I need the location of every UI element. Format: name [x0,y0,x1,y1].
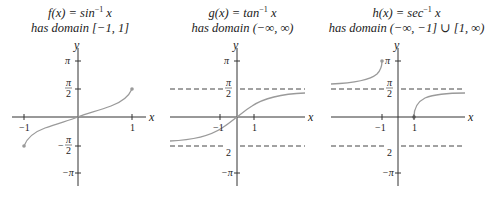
y-tick-neg-pi: −π [221,167,234,178]
svg-text:2: 2 [226,88,231,99]
x-axis-label: x [467,110,474,124]
x-tick-neg1: −1 [375,122,386,133]
y-tick-pi: π [224,55,230,66]
svg-text:2: 2 [66,145,71,156]
panel-arcsin: f(x) = sin−1 x has domain [−1, 1] x y −1… [0,0,160,201]
svg-text:−: − [58,140,64,151]
y-tick-neg-half-pi: 2 [387,147,392,158]
y-tick-pi: π [65,55,71,66]
svg-text:2: 2 [387,88,392,99]
arctan-graph: x y −1 1 π π 2 2 −π [160,0,325,201]
panel-arcsec: h(x) = sec−1 x has domain (−∞, −1] ∪ [1,… [325,0,488,201]
svg-text:π: π [66,77,72,88]
y-axis-label: y [393,38,400,52]
svg-text:π: π [226,77,232,88]
y-tick-neg-pi: −π [382,167,395,178]
svg-text:2: 2 [66,88,71,99]
x-tick-1: 1 [130,122,135,133]
y-tick-neg-pi: −π [62,167,75,178]
x-tick-neg1: −1 [213,122,224,133]
x-tick-1: 1 [252,122,257,133]
x-axis-label: x [148,110,155,124]
x-axis-label: x [307,110,314,124]
x-tick-neg1: −1 [19,122,30,133]
svg-text:π: π [387,77,393,88]
x-tick-1: 1 [412,122,417,133]
panel-arctan: g(x) = tan−1 x has domain (−∞, ∞) x y −1… [160,0,325,201]
y-axis-label: y [232,38,239,52]
y-tick-pi: π [385,55,391,66]
y-tick-neg-half-pi: 2 [226,147,231,158]
arcsin-graph: x y −1 1 π π 2 − π 2 −π [0,0,160,201]
svg-text:π: π [66,134,72,145]
arcsec-graph: x y −1 1 π π 2 2 −π [325,0,488,201]
y-axis-label: y [73,38,80,52]
